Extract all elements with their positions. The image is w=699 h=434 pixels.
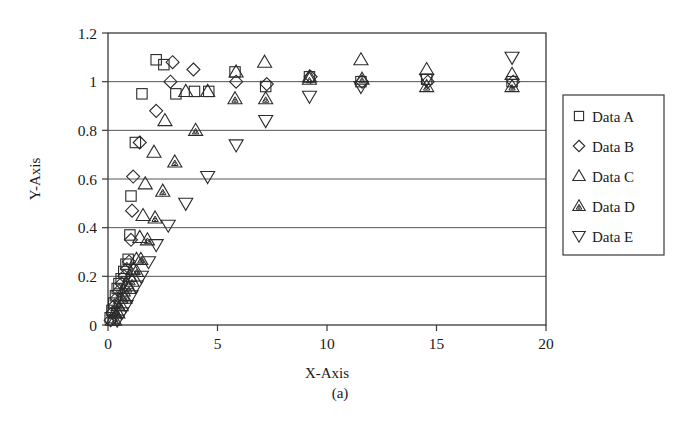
marker-diamond-point: [126, 204, 139, 217]
x-axis-title: X-Axis: [305, 365, 349, 381]
marker-triangle-down-point: [229, 140, 243, 152]
marker-triangle-up-hatched-point: [189, 123, 203, 135]
marker-triangle-up-hatched-point: [259, 92, 273, 104]
marker-triangle-down-point: [302, 91, 316, 103]
series-data-d: [108, 72, 520, 325]
scatter-chart: 00.20.40.60.811.205101520X-AxisY-AxisDat…: [0, 0, 699, 434]
legend-label: Data E: [592, 229, 633, 245]
marker-diamond-point: [166, 56, 179, 69]
marker-triangle-up-hatched-point: [228, 92, 242, 104]
y-axis-title: Y-Axis: [27, 158, 43, 201]
marker-triangle-down-point: [201, 172, 215, 184]
marker-square-point: [126, 191, 136, 201]
legend-label: Data D: [592, 199, 635, 215]
marker-triangle-up-point: [147, 145, 161, 157]
y-tick-label: 0.6: [78, 171, 98, 188]
marker-triangle-up-point: [158, 114, 172, 126]
series-data-c: [105, 53, 519, 325]
marker-diamond-point: [150, 104, 163, 117]
marker-diamond-point: [187, 63, 200, 76]
marker-triangle-down-point: [161, 220, 175, 232]
y-tick-label: 1.2: [78, 25, 97, 42]
x-tick-label: 10: [319, 335, 335, 352]
marker-triangle-up-hatched-point: [156, 184, 170, 196]
x-tick-label: 20: [538, 335, 554, 352]
marker-triangle-up-hatched-point: [168, 155, 182, 167]
x-tick-label: 0: [104, 335, 112, 352]
y-tick-label: 0: [89, 317, 97, 334]
marker-triangle-down-point: [259, 116, 273, 128]
marker-diamond-point: [127, 170, 140, 183]
y-tick-label: 0.4: [78, 219, 98, 236]
series-data-a: [105, 55, 517, 323]
y-tick-label: 0.2: [78, 268, 97, 285]
figure-caption: (a): [332, 385, 349, 402]
legend-label: Data B: [592, 139, 634, 155]
marker-square-point: [189, 86, 199, 96]
y-tick-label: 1: [89, 73, 97, 90]
marker-triangle-down-point: [505, 52, 519, 64]
marker-square-point: [171, 89, 181, 99]
marker-diamond-point: [133, 136, 146, 149]
marker-triangle-down-point: [149, 240, 163, 252]
series-data-e: [110, 52, 519, 327]
marker-triangle-up-point: [258, 55, 272, 67]
marker-triangle-up-hatched-point: [148, 211, 162, 223]
x-tick-label: 5: [214, 335, 222, 352]
x-tick-label: 15: [429, 335, 445, 352]
y-tick-label: 0.8: [78, 122, 98, 139]
legend-label: Data A: [592, 109, 634, 125]
marker-square-point: [130, 137, 140, 147]
marker-triangle-down-point: [179, 198, 193, 210]
figure-panel: 00.20.40.60.811.205101520X-AxisY-AxisDat…: [0, 0, 699, 434]
marker-triangle-up-point: [420, 62, 434, 74]
marker-square-point: [137, 89, 147, 99]
legend-label: Data C: [592, 169, 634, 185]
marker-triangle-up-point: [354, 53, 368, 65]
